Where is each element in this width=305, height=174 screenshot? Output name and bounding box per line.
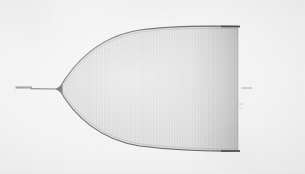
figure-root: Scanned grayscale bifurcation diagram: a… xyxy=(0,0,305,174)
bifurcation-diagram xyxy=(0,0,305,174)
right-edge-shading xyxy=(190,20,240,160)
